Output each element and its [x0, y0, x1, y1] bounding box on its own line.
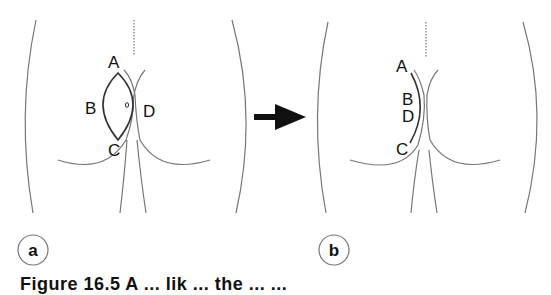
panel-label-a: a [18, 235, 48, 265]
label-point-b: B [85, 99, 96, 118]
figure-caption: Figure 16.5 A ... lik ... the ... ... [20, 274, 287, 295]
sinus-opening-marker [125, 103, 128, 108]
left-cleft-line [411, 150, 419, 213]
right-cleft-line [429, 150, 437, 213]
svg-text:a: a [28, 241, 38, 260]
right-body-outline [523, 22, 537, 213]
panel-label-b: b [319, 235, 349, 265]
right-arrow-icon [254, 104, 306, 130]
left-cleft-line [120, 140, 127, 213]
right-body-outline [232, 20, 246, 213]
left-body-outline [25, 20, 36, 213]
panel-a [25, 20, 246, 213]
label-point-c: C [108, 141, 120, 160]
right-buttock-crease [427, 70, 500, 165]
label-point-d: D [143, 102, 155, 121]
panel-b [317, 22, 537, 213]
label-point-a: A [108, 53, 120, 72]
label-point-a: A [396, 57, 408, 76]
left-body-outline [317, 22, 328, 213]
label-point-d: D [402, 107, 414, 126]
svg-text:b: b [329, 241, 339, 260]
label-point-c: C [396, 140, 408, 159]
right-cleft-line [137, 140, 146, 213]
